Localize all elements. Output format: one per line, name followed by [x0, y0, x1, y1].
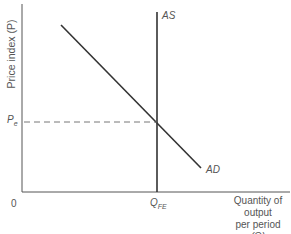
x-axis-label: Quantity of output per period (Q) — [222, 195, 291, 234]
y-axis-label: Price index (P) — [5, 9, 17, 99]
equilibrium-price-label: Pe — [7, 114, 18, 127]
origin-label: 0 — [11, 198, 17, 209]
aggregate-demand-curve — [61, 25, 201, 168]
full-employment-quantity-label: QFE — [150, 197, 167, 210]
ad-curve-label: AD — [206, 164, 220, 175]
as-curve-label: AS — [162, 10, 175, 21]
